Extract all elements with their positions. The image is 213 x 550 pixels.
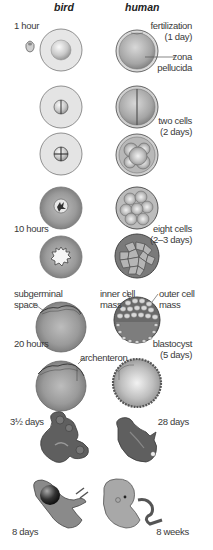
column-header-bird: bird [54, 1, 74, 13]
human-stage-3-four-cells [116, 134, 158, 176]
human-stage-2-two-cells [116, 86, 158, 128]
human-stage-6-time: (5 days) [160, 349, 192, 360]
subgerminal-space-label-2: space [14, 299, 38, 310]
zona-pellucida-label-1: zona [173, 51, 192, 62]
human-stage-1-label: fertilization [150, 20, 192, 31]
human-stage-4-eight-cells [116, 187, 158, 229]
human-stage-8-time: 28 days [158, 416, 189, 427]
archenteron-label: archenteron [80, 352, 127, 363]
bird-stage-1-zygote [40, 29, 82, 71]
outer-cell-mass-label-2: mass [159, 299, 181, 310]
human-stage-4-time: (2–3 days) [150, 234, 192, 245]
column-header-human: human [125, 1, 159, 13]
human-stage-6-label: blastocyst [153, 338, 192, 349]
human-stage-2-label: two cells [158, 115, 192, 126]
bird-embryo-3-5-days [41, 412, 89, 463]
bird-stage-9-time: 8 days [12, 526, 38, 537]
bird-embryo-8-days [34, 480, 88, 528]
bird-stage-6-time: 20 hours [14, 338, 49, 349]
inner-cell-mass-label-2: mass [100, 299, 122, 310]
human-embryo-8-weeks [103, 479, 162, 528]
bird-stage-7-gastrula [36, 358, 86, 411]
inner-cell-mass-label-1: inner cell [100, 288, 135, 299]
human-stage-1-time: (1 day) [165, 31, 192, 42]
embryo-comparison-figure [0, 0, 213, 550]
bird-stage-4-time: 10 hours [14, 223, 49, 234]
zona-pellucida-label-2: pellucida [157, 62, 192, 73]
human-stage-9-time: 8 weeks [156, 526, 189, 537]
bird-stage-5 [40, 236, 82, 278]
human-stage-4-label: eight cells [153, 223, 192, 234]
human-embryo-28-days [117, 418, 157, 462]
human-stage-7 [113, 359, 161, 407]
subgerminal-space-label-1: subgerminal [14, 288, 62, 299]
bird-stage-1-time: 1 hour [14, 20, 39, 31]
human-stage-2-time: (2 days) [160, 126, 192, 137]
bird-egg-icon [26, 41, 35, 52]
bird-stage-3 [40, 133, 82, 175]
bird-stage-2 [40, 86, 82, 128]
outer-cell-mass-label-1: outer cell [159, 288, 195, 299]
bird-stage-8-time: 3½ days [10, 416, 44, 427]
